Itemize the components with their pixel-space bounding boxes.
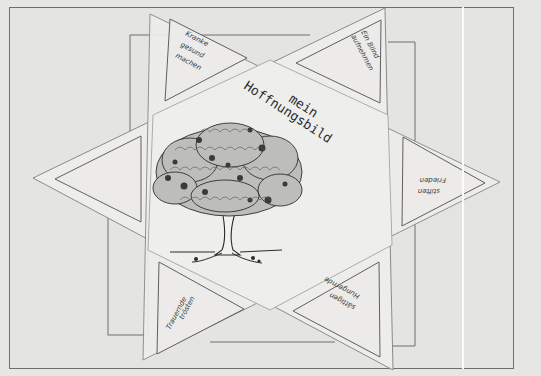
label-right-2: stiften xyxy=(418,187,440,195)
label-right-1: Frieden xyxy=(420,176,446,184)
hope-star-craft: Kranke gesund machen Ein Blind aufnehmen… xyxy=(0,0,541,376)
scan-artifact-line xyxy=(462,7,464,369)
